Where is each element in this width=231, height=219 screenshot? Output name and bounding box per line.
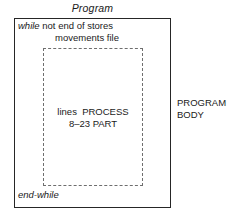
while-condition-line-1: while not end of stores [18,20,168,32]
process-part-line-1: lines PROCESS [43,106,143,118]
while-keyword: while [18,20,40,31]
program-body-annotation-line-2: BODY [177,109,226,121]
while-condition-text-1: not end of stores [40,20,113,31]
diagram-title: Program [14,2,171,15]
program-structure-diagram: Program while not end of stores movement… [0,0,231,219]
program-body-annotation-line-1: PROGRAM [177,97,226,109]
while-condition-header: while not end of stores movements file [18,20,168,43]
while-condition-line-2: movements file [18,32,168,44]
program-body-annotation: PROGRAM BODY [177,97,226,121]
end-while-keyword: end-while [18,189,59,201]
process-part-line-2: 8–23 PART [43,118,143,130]
process-part-label: lines PROCESS 8–23 PART [43,106,143,129]
